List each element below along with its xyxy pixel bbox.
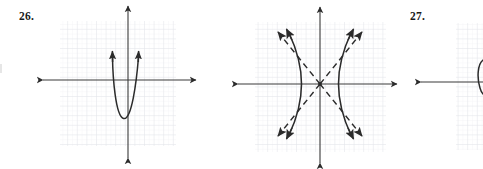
- panel-28-plot: [400, 0, 483, 169]
- panel-27-plot: [200, 0, 400, 169]
- figure-sheet: 26.: [0, 0, 483, 169]
- panel-26-grid: [60, 21, 176, 146]
- panel-26-plot: [0, 0, 200, 169]
- panel-27-center-point: [318, 82, 322, 86]
